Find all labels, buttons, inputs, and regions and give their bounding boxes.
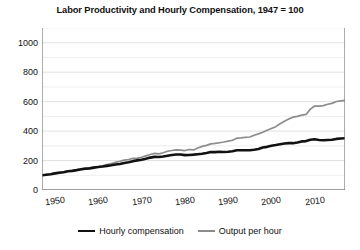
y-tick-label: 600 <box>2 97 38 107</box>
x-tick-label: 1960 <box>88 195 109 207</box>
legend-swatch-icon <box>198 230 215 232</box>
plot-area <box>42 28 345 190</box>
y-axis: 02004006008001000 <box>0 28 38 190</box>
y-tick-label: 800 <box>2 67 38 77</box>
x-tick-label: 1990 <box>218 195 239 207</box>
grid-lines <box>42 28 345 190</box>
legend-entry[interactable]: Hourly compensation <box>78 226 184 236</box>
y-tick-label: 200 <box>2 156 38 166</box>
y-tick-label: 400 <box>2 126 38 136</box>
axis-frame <box>42 28 345 190</box>
x-tick-label: 2010 <box>304 195 325 207</box>
legend-entry[interactable]: Output per hour <box>198 226 282 236</box>
x-tick-label: 2000 <box>261 195 282 207</box>
legend-label: Hourly compensation <box>99 226 184 236</box>
x-tick-label: 1980 <box>174 195 195 207</box>
chart-plot-svg <box>42 28 345 190</box>
y-tick-label: 0 <box>2 185 38 195</box>
chart-title: Labor Productivity and Hourly Compensati… <box>0 5 360 15</box>
x-axis: 1950196019701980199020002010 <box>42 190 345 216</box>
legend-label: Output per hour <box>219 226 282 236</box>
series-line-hourly-compensation <box>42 138 345 175</box>
data-series-group <box>42 100 345 175</box>
chart-legend: Hourly compensationOutput per hour <box>0 226 360 236</box>
legend-swatch-icon <box>78 230 95 233</box>
chart-figure: Labor Productivity and Hourly Compensati… <box>0 0 360 250</box>
x-tick-label: 1970 <box>131 195 152 207</box>
series-line-output-per-hour <box>42 100 345 175</box>
x-tick-label: 1950 <box>44 195 65 207</box>
y-tick-label: 1000 <box>2 38 38 48</box>
